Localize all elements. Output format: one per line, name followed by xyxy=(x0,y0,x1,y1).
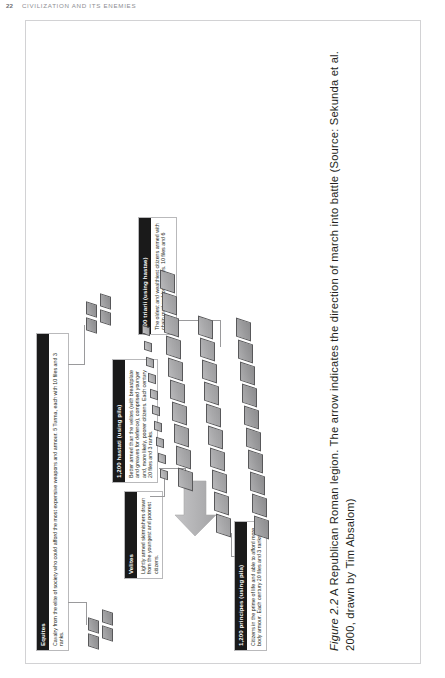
unit-triarii-8 xyxy=(240,362,255,386)
figure-caption: Figure 2.2 A Republican Roman legion. Th… xyxy=(326,47,358,651)
unit-velites-9 xyxy=(144,341,152,353)
unit-triarii-5 xyxy=(246,428,261,452)
unit-velites-2 xyxy=(158,453,166,465)
callout-principes-header: 1,200 principes (using pila) xyxy=(235,522,247,650)
leader-equites-left xyxy=(68,602,86,603)
legion-diagram: Equites Cavalry from the elite of societ… xyxy=(26,21,318,665)
figure-caption-text: A Republican Roman legion. The arrow ind… xyxy=(328,51,356,651)
leader-equites-right xyxy=(68,364,84,365)
unit-velites-1 xyxy=(160,469,168,481)
unit-equites-right-4 xyxy=(100,293,111,310)
unit-principes-9 xyxy=(200,338,215,362)
unit-hastati-7 xyxy=(166,336,181,360)
figure-frame: Equites Cavalry from the elite of societ… xyxy=(25,20,421,664)
leader-equites-left-h xyxy=(86,602,87,625)
callout-equites: Equites Cavalry from the elite of societ… xyxy=(36,333,69,651)
unit-principes-5 xyxy=(208,426,223,450)
callout-principes-body: Citizens in the prime of life and able t… xyxy=(247,522,266,650)
running-head: 22CIVILIZATION AND ITS ENEMIES xyxy=(6,2,426,12)
leader-triarii-h xyxy=(220,320,221,347)
callout-velites: Velites Lightly armed skirmishers drawn … xyxy=(124,491,163,579)
figure-caption-label: Figure 2.2 xyxy=(328,599,340,651)
unit-principes-8 xyxy=(202,360,217,384)
unit-hastati-5 xyxy=(170,380,185,404)
unit-equites-right-1 xyxy=(86,317,97,334)
unit-equites-left-1 xyxy=(88,633,99,650)
callout-equites-body: Cavalry from the elite of society who co… xyxy=(49,334,68,650)
unit-triarii-6 xyxy=(244,406,259,430)
unit-triarii-4 xyxy=(248,450,263,474)
unit-hastati-6 xyxy=(168,358,183,382)
figure-rotation-stage: Equites Cavalry from the elite of societ… xyxy=(26,21,422,665)
leader-equites-right-h xyxy=(84,325,85,365)
callout-hastati-header: 1,200 hastati (using pila) xyxy=(113,360,125,482)
unit-triarii-9 xyxy=(238,340,253,364)
callout-velites-body: Lightly armed skirmishers drawn from the… xyxy=(137,492,162,578)
unit-equites-right-2 xyxy=(86,301,97,318)
leader-principes-h xyxy=(231,533,232,557)
unit-principes-10 xyxy=(198,316,213,340)
unit-hastati-4 xyxy=(172,402,187,426)
figure-landscape-canvas: Equites Cavalry from the elite of societ… xyxy=(26,21,422,665)
unit-hastati-2 xyxy=(176,446,191,470)
unit-principes-7 xyxy=(204,382,219,406)
unit-equites-left-2 xyxy=(88,617,99,634)
unit-triarii-7 xyxy=(242,384,257,408)
callout-velites-header: Velites xyxy=(125,492,137,578)
unit-equites-left-4 xyxy=(102,609,113,626)
leader-velites-h xyxy=(164,479,165,497)
running-title: CIVILIZATION AND ITS ENEMIES xyxy=(22,2,136,9)
unit-principes-1 xyxy=(216,514,231,538)
unit-triarii-2 xyxy=(252,494,267,518)
unit-triarii-10 xyxy=(236,318,251,342)
page-folio: 22 xyxy=(6,2,13,9)
callout-triarii-header: 600 triarii (using hastae) xyxy=(139,218,151,334)
unit-principes-4 xyxy=(210,448,225,472)
callout-principes: 1,200 principes (using pila) Citizens in… xyxy=(234,521,267,651)
unit-triarii-3 xyxy=(250,472,265,496)
unit-hastati-3 xyxy=(174,424,189,448)
unit-principes-6 xyxy=(206,404,221,428)
unit-equites-right-3 xyxy=(100,309,111,326)
unit-equites-left-3 xyxy=(102,625,113,642)
callout-equites-header: Equites xyxy=(37,334,49,650)
leader-velites-v xyxy=(150,496,164,497)
